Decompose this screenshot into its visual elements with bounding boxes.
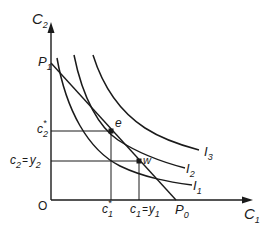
budget-end-label: P0 (175, 202, 189, 220)
budget-start-label: P1 (38, 54, 52, 72)
x-axis-label: C1 (244, 205, 260, 225)
labels: C2 C1 O P1 P0 I1 I2 I3 e w c2* (10, 10, 260, 225)
origin-label: O (38, 199, 47, 213)
axes (48, 22, 254, 204)
indifference-curve-i3 (93, 55, 199, 150)
indifference-curves (57, 55, 199, 185)
guide-lines (51, 131, 139, 200)
point-w-label: w (143, 154, 152, 166)
intertemporal-choice-diagram: C2 C1 O P1 P0 I1 I2 I3 e w c2* (0, 0, 266, 230)
c1-y1-label: c1=y1 (130, 202, 160, 219)
indifference-curve-i1-label: I1 (193, 178, 202, 196)
indifference-curve-i1 (57, 58, 192, 185)
x-axis-arrowhead-icon (242, 197, 253, 204)
y-axis-arrowhead-icon (48, 22, 55, 33)
point-w (137, 159, 142, 164)
c1-star-label: c1* (102, 198, 113, 219)
y-axis-label: C2 (32, 10, 48, 30)
c2-y2-label: c2=y2 (10, 153, 41, 170)
indifference-curve-i2 (74, 55, 185, 168)
point-e-label: e (115, 116, 122, 130)
c2-star-label: c2* (37, 118, 48, 139)
indifference-curve-i3-label: I3 (204, 144, 213, 162)
point-e (109, 129, 114, 134)
indifference-curve-i2-label: I2 (186, 161, 195, 179)
